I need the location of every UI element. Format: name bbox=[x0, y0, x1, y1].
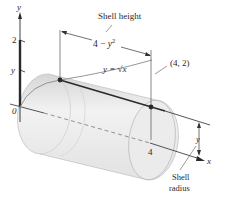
shell-radius-label-line2: radius bbox=[169, 183, 190, 193]
x-axis-arrow-icon bbox=[196, 156, 205, 161]
tick-label-4: 4 bbox=[148, 147, 153, 157]
curve-equation-label: y = √x bbox=[102, 64, 127, 74]
tick-label-y: y bbox=[10, 65, 15, 75]
curve-point bbox=[58, 78, 63, 83]
height-expression: 4 − y2 bbox=[93, 37, 115, 49]
shell-height-label: Shell height bbox=[98, 11, 142, 21]
y-axis-label: y bbox=[16, 2, 21, 12]
origin-label: 0 bbox=[12, 106, 17, 116]
radius-dimension-label: y bbox=[195, 134, 200, 144]
point-leader bbox=[155, 66, 167, 74]
x-axis-label: x bbox=[206, 156, 211, 166]
point-label: (4, 2) bbox=[170, 58, 190, 68]
shell-radius-leader bbox=[180, 146, 196, 170]
y-axis-arrow-icon bbox=[18, 12, 22, 19]
tick-label-2: 2 bbox=[12, 35, 17, 45]
shell-height-leader bbox=[106, 25, 112, 32]
line-x4-point bbox=[149, 105, 154, 110]
shell-method-figure: y 2 y 0 x 4 − y2 Shell height y = √x (4,… bbox=[0, 0, 228, 205]
shell-radius-label-line1: Shell bbox=[172, 172, 190, 182]
